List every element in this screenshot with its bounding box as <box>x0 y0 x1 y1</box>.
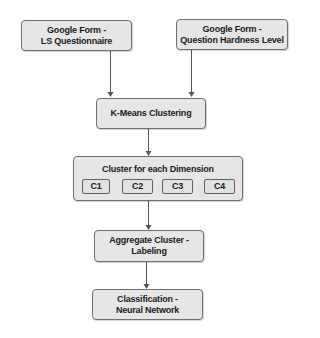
node-label: Aggregate Cluster - Labeling <box>109 235 189 257</box>
cluster-c3: C3 <box>162 179 193 194</box>
node-label: Google Form - LS Questionnaire <box>41 25 112 47</box>
node-google-form-ls-questionnaire: Google Form - LS Questionnaire <box>21 20 132 51</box>
node-label: K-Means Clustering <box>111 108 192 119</box>
node-aggregate-cluster-labeling: Aggregate Cluster - Labeling <box>94 230 204 262</box>
node-label: Classification - Neural Network <box>116 294 179 316</box>
cluster-c4: C4 <box>204 179 235 194</box>
node-google-form-question-hardness: Google Form - Question Hardness Level <box>176 19 288 50</box>
node-classification-neural-network: Classification - Neural Network <box>92 289 203 320</box>
cluster-c2: C2 <box>122 179 153 194</box>
node-kmeans-clustering: K-Means Clustering <box>96 98 206 129</box>
node-label: Google Form - Question Hardness Level <box>180 24 283 46</box>
node-cluster-for-each-dimension: Cluster for each Dimension C1 C2 C3 C4 <box>73 156 243 201</box>
cluster-c1: C1 <box>82 179 110 194</box>
node-label: Cluster for each Dimension <box>74 164 242 175</box>
